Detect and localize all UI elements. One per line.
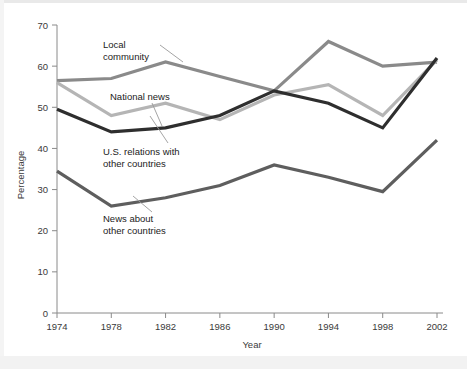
annotation-line: community: [103, 51, 149, 62]
annotation-line: other countries: [103, 158, 166, 169]
x-axis-tick-label: 1994: [318, 321, 339, 332]
y-axis-tick-label: 60: [37, 61, 48, 72]
series-line-national-news: [57, 60, 437, 120]
chart-figure: 010203040506070 197419781982198619901994…: [0, 0, 467, 369]
line-chart: 010203040506070 197419781982198619901994…: [0, 0, 467, 369]
annotation-line: U.S. relations with: [103, 146, 180, 157]
annotation-local-community: Localcommunity: [103, 39, 149, 62]
annotation-line: other countries: [103, 225, 166, 236]
x-axis-tick-label: 1990: [264, 321, 285, 332]
x-axis-tick-label: 1974: [46, 321, 67, 332]
y-axis-tick-label: 70: [37, 20, 48, 31]
leader-line-local-community: [160, 45, 183, 62]
x-axis-tick-label: 1986: [209, 321, 230, 332]
y-axis-title: Percentage: [15, 151, 26, 200]
annotation-line: News about: [103, 213, 154, 224]
x-axis-tick-label: 2002: [426, 321, 447, 332]
y-axis-tick-label: 50: [37, 102, 48, 113]
annotation-line: National news: [110, 91, 170, 102]
annotation-us-relations: U.S. relations withother countries: [103, 146, 180, 169]
annotation-news-other: News aboutother countries: [103, 213, 166, 236]
x-axis-tick-label: 1978: [101, 321, 122, 332]
x-axis-ticks: 19741978198219861990199419982002: [46, 313, 447, 332]
x-axis-title: Year: [242, 339, 261, 350]
y-axis-tick-label: 40: [37, 143, 48, 154]
x-axis-tick-label: 1998: [372, 321, 393, 332]
data-series-group: [57, 41, 437, 206]
y-axis-tick-label: 10: [37, 266, 48, 277]
y-axis-tick-label: 30: [37, 184, 48, 195]
y-axis-tick-label: 20: [37, 225, 48, 236]
annotation-line: Local: [103, 39, 126, 50]
y-axis-tick-label: 0: [43, 308, 48, 319]
leader-line-news-other: [133, 196, 152, 212]
y-axis-ticks: 010203040506070: [37, 20, 57, 319]
annotation-national-news: National news: [110, 91, 170, 102]
x-axis-tick-label: 1982: [155, 321, 176, 332]
